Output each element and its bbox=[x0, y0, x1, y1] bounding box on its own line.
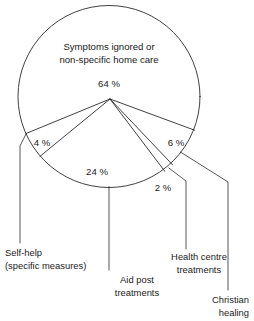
slice-label-self-help-line1: Self-help bbox=[5, 247, 42, 258]
slice-value-christian-healing: 6 % bbox=[168, 137, 185, 148]
slice-value-self-help: 4 % bbox=[34, 137, 51, 148]
slice-value-symptoms: 64 % bbox=[98, 78, 120, 89]
slice-value-aid-post: 24 % bbox=[86, 166, 108, 177]
slice-divider-aidpost-healthcentre bbox=[110, 99, 165, 171]
slice-divider-selfhelp-aidpost bbox=[40, 99, 110, 156]
slice-label-symptoms-line1: Symptoms ignored or bbox=[63, 41, 155, 52]
slice-divider-symptoms-selfhelp bbox=[26, 99, 110, 133]
slice-label-christian-healing-line2: healing bbox=[219, 307, 249, 318]
leader-line-self-help bbox=[20, 133, 26, 243]
leader-line-health-centre bbox=[169, 168, 186, 249]
slice-label-aid-post-line1: Aid post bbox=[120, 274, 154, 285]
slice-value-health-centre: 2 % bbox=[155, 182, 172, 193]
slice-label-christian-healing-line1: Christian bbox=[212, 294, 249, 305]
slice-label-aid-post-line2: treatments bbox=[115, 287, 160, 298]
slice-divider-christian-symptoms bbox=[110, 99, 195, 130]
slice-divider-healthcentre-christian bbox=[110, 99, 173, 165]
slice-label-health-centre-line2: treatments bbox=[177, 264, 222, 275]
slice-label-health-centre-line1: Health centre bbox=[171, 251, 227, 262]
pie-chart-svg: 64 % 4 % 24 % 2 % 6 % Symptoms ignored o… bbox=[0, 0, 254, 321]
slice-label-symptoms-line2: non-specific home care bbox=[59, 54, 158, 65]
pie-outer-circle bbox=[18, 6, 200, 188]
slice-label-self-help-line2: (specific measures) bbox=[5, 260, 86, 271]
pie-chart-figure: 64 % 4 % 24 % 2 % 6 % Symptoms ignored o… bbox=[0, 0, 254, 321]
